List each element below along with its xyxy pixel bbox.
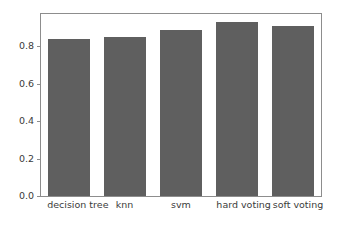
x-axis-tick-label: hard voting (216, 200, 258, 210)
bar (48, 39, 90, 196)
bar (272, 26, 314, 196)
bar (160, 30, 202, 196)
y-axis-tick-label: 0.2 (19, 154, 34, 164)
bar (104, 37, 146, 196)
bar (216, 22, 258, 196)
x-axis-tick-label: soft voting (273, 200, 315, 210)
x-axis-tick-labels: decision treeknnsvmhard votingsoft votin… (40, 200, 322, 210)
bar-chart-figure: 0.00.20.40.60.8 decision treeknnsvmhard … (0, 0, 339, 231)
y-axis-tick (37, 196, 41, 197)
x-axis-tick-label: decision tree (47, 200, 89, 210)
plot-area: 0.00.20.40.60.8 (40, 13, 322, 197)
y-axis-tick-label: 0.0 (19, 191, 34, 201)
x-axis-tick-label: svm (160, 200, 202, 210)
y-axis-tick-label: 0.4 (19, 116, 34, 126)
y-axis-tick-label: 0.6 (19, 79, 34, 89)
x-axis-tick-label: knn (104, 200, 146, 210)
y-axis-tick-label: 0.8 (19, 42, 34, 52)
bars-layer (41, 14, 321, 196)
